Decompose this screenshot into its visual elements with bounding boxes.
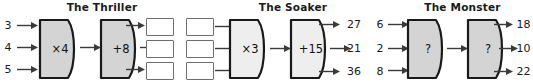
answer-box-soaker-in-1[interactable] (186, 18, 214, 36)
input-value-monster-1: 6 (373, 19, 387, 31)
output-value-soaker-1: 27 (343, 19, 365, 31)
arrow-soaker-out-1 (319, 20, 341, 29)
input-value-monster-2: 2 (373, 43, 387, 55)
output-value-monster-3: 22 (514, 66, 533, 78)
arrow-thriller-in-2 (17, 43, 39, 52)
section-title-thriller: The Thriller (47, 1, 157, 13)
answer-box-thriller-2[interactable] (146, 40, 174, 58)
input-value-thriller-1: 3 (0, 20, 16, 32)
arrow-thriller-in-1 (17, 21, 39, 30)
machine-soaker-1[interactable]: ×3 (228, 18, 272, 80)
arrow-soaker-out-3 (319, 67, 341, 76)
machine-thriller-1[interactable]: ×4 (38, 18, 82, 80)
arrow-thriller-out-1 (126, 21, 146, 30)
machine-monster-1[interactable]: ? (406, 18, 450, 80)
arrow-thriller-out-3 (126, 65, 146, 74)
input-value-thriller-3: 5 (0, 64, 16, 76)
arrow-monster-out-3 (494, 67, 514, 76)
input-value-thriller-2: 4 (0, 42, 16, 54)
output-value-monster-1: 18 (514, 19, 533, 31)
answer-box-soaker-in-3[interactable] (186, 62, 214, 80)
output-value-monster-2: 10 (514, 43, 533, 55)
arrow-thriller-in-3 (17, 65, 39, 74)
section-title-monster: The Monster (405, 1, 520, 13)
worksheet-canvas: The Thriller The Soaker The Monster 3 4 … (0, 0, 533, 82)
output-value-soaker-2: 21 (343, 43, 365, 55)
answer-box-thriller-3[interactable] (146, 62, 174, 80)
arrow-monster-out-1 (494, 20, 514, 29)
input-value-monster-3: 8 (373, 66, 387, 78)
answer-box-soaker-in-2[interactable] (186, 40, 214, 58)
answer-box-thriller-1[interactable] (146, 18, 174, 36)
output-value-soaker-3: 36 (343, 66, 365, 78)
section-title-soaker: The Soaker (238, 1, 348, 13)
